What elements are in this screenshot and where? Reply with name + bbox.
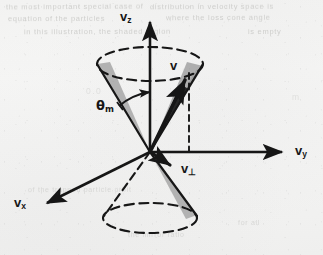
loss-cone-figure: the most important special case ofdistri… <box>0 0 323 255</box>
axis-label-vy: vy <box>295 143 307 159</box>
lower-cone-cap <box>103 203 197 233</box>
vector-label-v: v <box>170 58 177 73</box>
vector-label-vperp: v⊥ <box>181 161 196 177</box>
lower-cone-edge-left <box>104 152 150 216</box>
axis-label-vz: vz <box>120 9 132 25</box>
vector-label-vperp-subscript: ⊥ <box>188 167 196 177</box>
angle-label-theta-m: θm <box>96 98 114 114</box>
angle-label-theta-symbol: θ <box>96 98 105 113</box>
angle-label-theta-subscript: m <box>105 104 114 114</box>
axis-label-vx: vx <box>14 195 26 211</box>
axis-label-vx-subscript: x <box>21 201 26 211</box>
vector-v <box>150 80 188 152</box>
axis-label-vz-subscript: z <box>127 15 131 25</box>
diagram-canvas <box>0 0 323 255</box>
axis-vx <box>47 152 150 203</box>
axis-label-vy-subscript: y <box>302 149 307 159</box>
vector-label-v-symbol: v <box>170 58 177 73</box>
